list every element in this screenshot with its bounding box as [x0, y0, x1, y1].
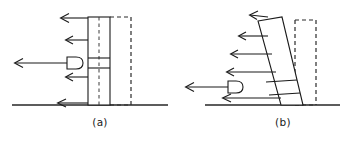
panel-a-load-arrow-1: [61, 14, 89, 23]
panel-b-load-arrow-1: [250, 11, 269, 20]
panel-a: (a): [12, 14, 168, 129]
figure-root: (a): [0, 0, 360, 147]
diagram-canvas: (a): [0, 0, 360, 147]
panel-a-caption: (a): [92, 116, 108, 128]
panel-a-base-shear-arrow: [58, 99, 89, 107]
panel-b-hydraulic-jack-icon: [228, 81, 243, 93]
panel-a-jack-reaction-arrow: [15, 59, 68, 68]
panel-a-hydraulic-jack-icon: [67, 57, 83, 69]
panel-b-jack-reaction-arrow: [186, 83, 229, 92]
panel-a-reference-outline: [110, 17, 131, 105]
panel-a-load-arrow-3: [66, 73, 89, 81]
panel-b-caption: (b): [275, 116, 291, 128]
panel-b-load-arrow-4: [227, 68, 277, 76]
panel-a-load-arrow-2: [66, 36, 89, 44]
panel-b: (b): [186, 11, 341, 128]
panel-b-column-deformed: [258, 17, 303, 105]
